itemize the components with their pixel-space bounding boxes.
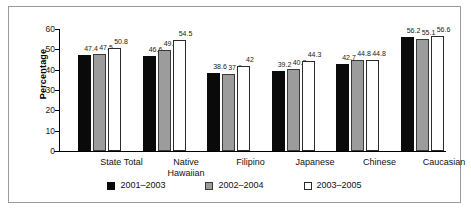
x-axis-category-line: Hawaiian (126, 168, 246, 179)
bar-groups: 47.447.550.8State Total46.649.854.5Nativ… (60, 29, 444, 151)
bar (272, 71, 285, 151)
bar (78, 55, 91, 151)
y-axis-tick-label: 50 (25, 45, 55, 54)
bar-value-label: 42 (235, 56, 265, 63)
bar (366, 60, 379, 151)
legend-label: 2002–2004 (218, 181, 263, 190)
bar-group: 47.447.550.8State Total (78, 29, 121, 151)
bar (173, 40, 186, 151)
y-axis-tick-label: 10 (25, 127, 55, 136)
x-axis-category-label: Caucasian (384, 157, 471, 168)
chart-legend: 2001–20032002–20042003–2005 (9, 181, 460, 190)
bar (143, 56, 156, 151)
bar (108, 48, 121, 151)
legend-item[interactable]: 2003–2005 (304, 181, 362, 190)
y-axis-tick-label: 60 (25, 25, 55, 34)
bar-value-label: 44.3 (300, 51, 330, 58)
bar (302, 61, 315, 151)
legend-swatch-icon (107, 182, 115, 190)
bar (351, 60, 364, 151)
x-axis-line (54, 151, 446, 152)
bar-group: 56.255.156.6Caucasian (401, 29, 444, 151)
bar (336, 64, 349, 151)
legend-label: 2003–2005 (317, 181, 362, 190)
bar-value-label: 50.8 (106, 38, 136, 45)
bar (237, 66, 250, 151)
bar (431, 36, 444, 151)
bar-group: 38.637.942Filipino (207, 29, 250, 151)
bar (207, 73, 220, 151)
bar (401, 37, 414, 151)
bar (416, 39, 429, 151)
bar-group: 42.744.844.8Chinese (336, 29, 379, 151)
legend-item[interactable]: 2002–2004 (205, 181, 263, 190)
bar-group: 46.649.854.5NativeHawaiian (143, 29, 186, 151)
y-axis-tick-label: 0 (25, 147, 55, 156)
bar-value-label: 56.6 (429, 26, 459, 33)
bar (158, 50, 171, 151)
y-axis-tick-label: 20 (25, 106, 55, 115)
legend-item[interactable]: 2001–2003 (107, 181, 165, 190)
y-axis-tick-label: 40 (25, 66, 55, 75)
bar (287, 69, 300, 151)
bar-value-label: 54.5 (171, 30, 201, 37)
bar (222, 74, 235, 151)
y-axis-tick-label: 30 (25, 86, 55, 95)
legend-swatch-icon (304, 182, 312, 190)
bar-value-label: 44.8 (364, 50, 394, 57)
plot-area: Percentage 0102030405060 47.447.550.8Sta… (59, 29, 444, 151)
legend-label: 2001–2003 (120, 181, 165, 190)
bar-group: 39.240.244.3Japanese (272, 29, 315, 151)
x-axis-category-line: Caucasian (384, 157, 471, 168)
legend-swatch-icon (205, 182, 213, 190)
chart-figure: Percentage 0102030405060 47.447.550.8Sta… (8, 6, 461, 203)
bar (93, 54, 106, 151)
